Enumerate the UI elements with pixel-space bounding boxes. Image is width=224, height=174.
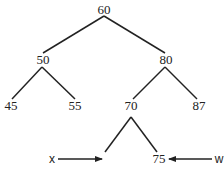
tree-node-75: 75 bbox=[153, 151, 166, 166]
tree-edges bbox=[12, 16, 197, 152]
tree-node-55: 55 bbox=[69, 98, 82, 113]
tree-nodes: 6050804555708775 bbox=[5, 2, 207, 166]
tree-node-87: 87 bbox=[193, 98, 207, 113]
edge-70-75 bbox=[131, 117, 157, 152]
pointer-label-x: x bbox=[49, 152, 55, 166]
edge-50-55 bbox=[42, 67, 75, 99]
edge-70-x bbox=[105, 117, 131, 152]
pointer-arrows: xw bbox=[49, 152, 224, 166]
edge-60-80 bbox=[104, 16, 165, 53]
pointer-label-w: w bbox=[214, 152, 224, 166]
tree-node-50: 50 bbox=[37, 52, 50, 67]
edge-80-70 bbox=[133, 67, 165, 99]
edge-60-50 bbox=[43, 16, 104, 53]
tree-node-70: 70 bbox=[125, 98, 138, 113]
edge-80-87 bbox=[165, 67, 197, 99]
bst-diagram: 6050804555708775 xw bbox=[0, 0, 224, 174]
tree-node-45: 45 bbox=[5, 98, 18, 113]
tree-node-80: 80 bbox=[160, 52, 173, 67]
tree-node-60: 60 bbox=[98, 2, 111, 17]
edge-50-45 bbox=[12, 67, 42, 99]
